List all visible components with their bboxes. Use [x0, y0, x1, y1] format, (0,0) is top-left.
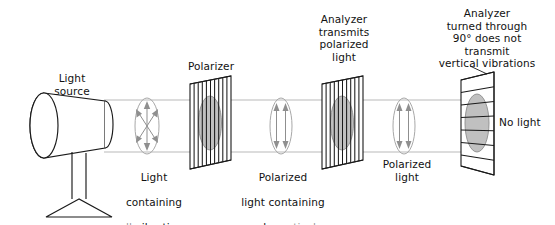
unpolarized-line-1: Light — [98, 171, 210, 184]
polarized-vertical-caption: Polarized light containing only vertical… — [222, 158, 344, 225]
polarized-dim-word: vertical — [276, 221, 316, 225]
unpolarized-line-2: containing — [98, 196, 210, 209]
unpolarized-line-3: all vibrations — [98, 221, 210, 225]
vertical-vibration-icon-1 — [270, 98, 292, 154]
analyzer-filter-aligned — [322, 76, 363, 169]
polarization-diagram: Light source Polarizer Analyzer transmit… — [0, 0, 555, 225]
no-light-label: No light — [499, 116, 551, 129]
unpolarized-line-3-rest: vibrations — [132, 221, 189, 225]
polarized-line-1: Polarized — [222, 171, 344, 184]
unpolarized-light-caption: Light containing all vibrations — [98, 158, 210, 225]
vertical-vibration-icon-2 — [393, 98, 415, 154]
analyzer-transmits-label: Analyzer transmits polarized light — [305, 13, 383, 63]
polarized-light-caption: Polarized light — [372, 158, 442, 183]
analyzer-turned-label: Analyzer turned through 90° does not tra… — [424, 7, 550, 70]
polarizer-label: Polarizer — [175, 60, 247, 73]
polarized-line-3-prefix: only — [250, 221, 276, 225]
multi-direction-vibration-icon — [135, 98, 159, 154]
polarized-line-3: only vertical — [222, 221, 344, 225]
unpolarized-dim-word: all — [119, 221, 132, 225]
analyzer-filter-crossed — [461, 72, 494, 175]
polarizer-filter — [190, 76, 231, 169]
polarized-line-2: light containing — [222, 196, 344, 209]
light-source-label: Light source — [22, 72, 122, 97]
